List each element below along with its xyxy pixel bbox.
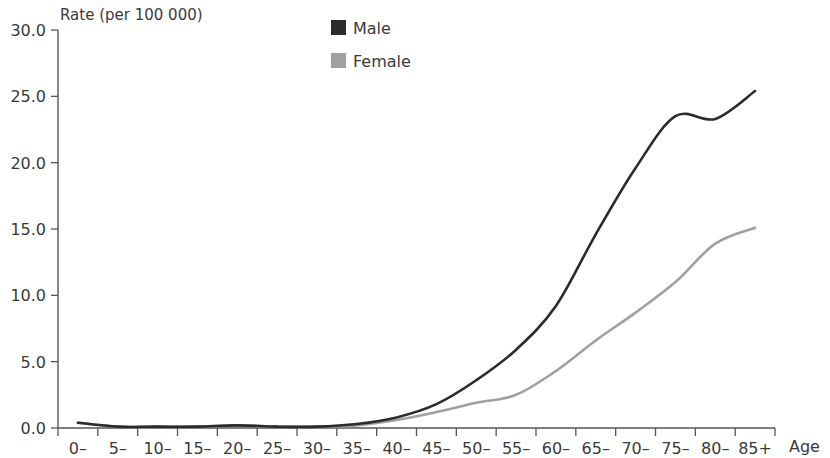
x-axis-tick-label: 65–	[582, 439, 610, 458]
y-axis-tick-label: 5.0	[21, 353, 46, 372]
x-axis-tick-label: 0–	[69, 439, 87, 458]
x-axis-tick-label: 30–	[303, 439, 331, 458]
line-chart: Rate (per 100 000) Age 0.05.010.015.020.…	[0, 0, 830, 458]
series-group	[78, 91, 755, 427]
x-axis-title: Age	[789, 437, 820, 456]
x-axis-tick-label: 35–	[343, 439, 371, 458]
y-axis-tick-label: 30.0	[10, 21, 46, 40]
series-line-female	[78, 228, 755, 427]
legend-label: Female	[353, 52, 411, 71]
y-axis-tick-label: 0.0	[21, 419, 46, 438]
x-axis-tick-label: 50–	[462, 439, 490, 458]
chart-legend: MaleFemale	[331, 19, 411, 71]
y-axis: 0.05.010.015.020.025.030.0	[10, 21, 58, 438]
x-axis-tick-label: 75–	[661, 439, 689, 458]
y-axis-tick-label: 15.0	[10, 220, 46, 239]
x-axis-tick-label: 40–	[382, 439, 410, 458]
legend-swatch	[331, 20, 346, 35]
y-axis-tick-label: 25.0	[10, 87, 46, 106]
x-axis-tick-label: 80–	[701, 439, 729, 458]
legend-swatch	[331, 53, 346, 68]
y-axis-title: Rate (per 100 000)	[60, 6, 203, 24]
x-axis-tick-label: 85+	[738, 439, 772, 458]
x-axis-tick-label: 15–	[183, 439, 211, 458]
x-axis-tick-label: 70–	[621, 439, 649, 458]
x-axis-tick-label: 55–	[502, 439, 530, 458]
x-axis: 0–5–10–15–20–25–30–35–40–45–50–55–60–65–…	[58, 428, 775, 458]
series-line-male	[78, 91, 755, 427]
x-axis-tick-label: 10–	[143, 439, 171, 458]
x-axis-tick-label: 5–	[109, 439, 127, 458]
x-axis-tick-label: 60–	[542, 439, 570, 458]
x-axis-tick-label: 45–	[422, 439, 450, 458]
x-axis-tick-label: 25–	[263, 439, 291, 458]
y-axis-tick-label: 20.0	[10, 154, 46, 173]
x-axis-tick-label: 20–	[223, 439, 251, 458]
chart-container: Rate (per 100 000) Age 0.05.010.015.020.…	[0, 0, 830, 458]
legend-label: Male	[353, 19, 391, 38]
y-axis-tick-label: 10.0	[10, 286, 46, 305]
